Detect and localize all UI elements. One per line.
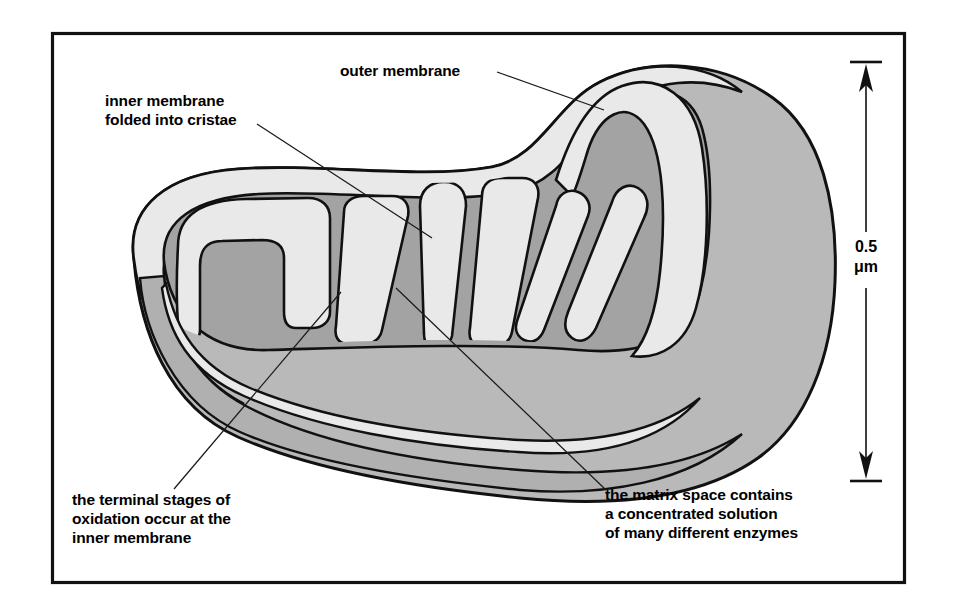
label-outer-membrane: outer membrane <box>340 62 461 79</box>
label-inner-membrane-line-2: folded into cristae <box>105 111 237 128</box>
scale-bar-unit: μm <box>854 258 878 275</box>
label-matrix-space-line-2: a concentrated solution <box>605 505 778 522</box>
label-terminal-stages-line-3: inner membrane <box>72 529 192 546</box>
label-inner-membrane-line-1: inner membrane <box>105 92 225 109</box>
label-outer-membrane-line-1: outer membrane <box>340 62 461 79</box>
label-terminal-stages-line-2: oxidation occur at the <box>72 510 231 527</box>
scale-bar-value: 0.5 <box>855 238 877 255</box>
label-matrix-space-line-3: of many different enzymes <box>605 524 798 541</box>
label-matrix-space: the matrix space contains a concentrated… <box>605 486 798 541</box>
label-terminal-stages-line-1: the terminal stages of <box>72 491 231 508</box>
label-matrix-space-line-1: the matrix space contains <box>605 486 793 503</box>
mitochondrion-diagram: outer membrane inner membrane folded int… <box>0 0 957 614</box>
figure-root: outer membrane inner membrane folded int… <box>0 0 957 614</box>
